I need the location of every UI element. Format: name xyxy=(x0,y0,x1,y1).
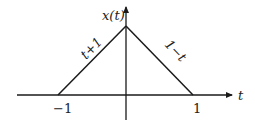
y-axis-label: x(t) xyxy=(102,8,125,23)
right-segment-label: 1−t xyxy=(162,37,190,66)
left-segment-label: t+1 xyxy=(77,34,105,62)
x-axis-label: t xyxy=(238,88,244,103)
tick-label-one: 1 xyxy=(193,101,201,116)
tick-label-neg-one: −1 xyxy=(53,101,72,116)
triangle-pulse-diagram: x(t) t t+1 1−t −1 1 xyxy=(0,0,255,124)
